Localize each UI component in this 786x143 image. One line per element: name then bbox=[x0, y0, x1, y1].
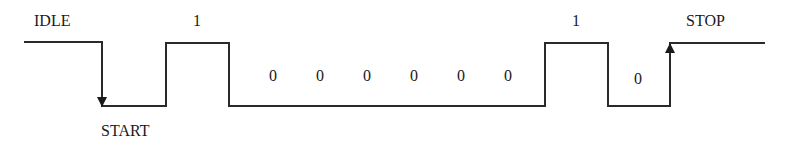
bit-label: 0 bbox=[269, 67, 277, 84]
bit-label: 1 bbox=[572, 12, 580, 29]
signal-waveform bbox=[24, 42, 765, 106]
bit-label: 0 bbox=[316, 67, 324, 84]
start-label: START bbox=[101, 122, 150, 139]
bit-label: 1 bbox=[193, 12, 201, 29]
bit-label: 0 bbox=[634, 70, 642, 87]
uart-timing-diagram: IDLE START STOP 1 0 0 0 0 0 0 1 0 bbox=[0, 0, 786, 143]
bit-label: 0 bbox=[457, 67, 465, 84]
stop-label: STOP bbox=[686, 12, 725, 29]
stop-edge-arrow-icon bbox=[665, 43, 675, 53]
bit-label: 0 bbox=[410, 67, 418, 84]
bit-label: 0 bbox=[504, 67, 512, 84]
bit-label: 0 bbox=[363, 67, 371, 84]
idle-label: IDLE bbox=[34, 12, 70, 29]
